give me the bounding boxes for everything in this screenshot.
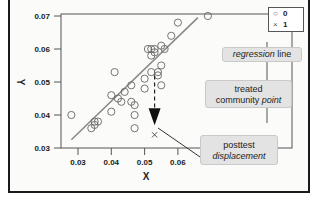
treated-point-callout: treated community point	[205, 80, 292, 108]
y-axis-title: Y	[15, 79, 26, 86]
callout-text: community	[216, 95, 262, 105]
y-tick-label: 0.03	[34, 144, 50, 153]
x-axis-title: X	[143, 171, 150, 182]
callout-italic-text: regression	[233, 49, 275, 59]
x-marker-icon: ×	[273, 19, 283, 30]
callout-text: line	[275, 49, 292, 59]
x-tick-label: 0.06	[170, 158, 186, 167]
legend-item-0: ○ 0	[269, 8, 303, 19]
regression-line-callout: regression line	[222, 47, 302, 62]
y-tick-label: 0.05	[34, 78, 50, 87]
y-axis: 0.030.040.050.060.07	[34, 12, 61, 153]
x-tick-label: 0.04	[104, 158, 120, 167]
legend-label: 0	[283, 8, 287, 19]
circle-marker-icon: ○	[273, 8, 283, 19]
legend-label: 1	[283, 19, 287, 30]
callout-italic-text: displacement	[212, 151, 265, 161]
y-tick-label: 0.07	[34, 12, 50, 21]
y-tick-label: 0.04	[34, 111, 50, 120]
x-axis: 0.030.040.050.06	[70, 148, 186, 167]
callout-text: posttest	[201, 140, 277, 151]
legend: ○ 0 × 1	[268, 7, 304, 32]
y-tick-label: 0.06	[34, 45, 50, 54]
x-tick-label: 0.05	[137, 158, 153, 167]
callout-text: treated	[206, 84, 291, 95]
legend-item-1: × 1	[269, 19, 303, 30]
x-tick-label: 0.03	[70, 158, 86, 167]
callout-italic-text: point	[262, 95, 282, 105]
posttest-displacement-callout: posttest displacement	[200, 135, 278, 165]
